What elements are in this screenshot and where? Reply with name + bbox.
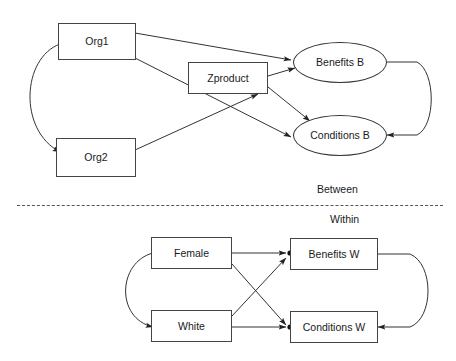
edge-org1-to-benefits-b (135, 33, 291, 60)
node-white-label: White (178, 321, 205, 332)
edge-zproduct-to-conditions-b (268, 87, 310, 121)
edge-benefits-w-conditions-w-covariance (378, 254, 428, 327)
node-org1-label: Org1 (85, 36, 108, 47)
node-benefits-b-label: Benefits B (316, 57, 364, 68)
node-benefits-w-label: Benefits W (309, 249, 360, 260)
edge-org2-to-zproduct (135, 94, 258, 150)
node-conditions-w[interactable]: Conditions W (290, 311, 378, 343)
level-divider (17, 205, 443, 206)
node-white[interactable]: White (151, 310, 232, 342)
node-conditions-b[interactable]: Conditions B (293, 115, 387, 156)
node-conditions-b-label: Conditions B (310, 130, 370, 141)
node-conditions-w-label: Conditions W (303, 322, 365, 333)
edge-female-white-covariance (126, 253, 153, 327)
section-label-within: Within (330, 213, 359, 225)
node-benefits-w[interactable]: Benefits W (290, 238, 378, 270)
node-benefits-b[interactable]: Benefits B (293, 42, 387, 83)
edge-female-to-conditions-w (232, 264, 286, 325)
node-org1[interactable]: Org1 (58, 23, 136, 60)
path-diagram: Org1 Org2 Zproduct Benefits B Conditions… (0, 0, 456, 361)
node-org2[interactable]: Org2 (56, 138, 136, 177)
edge-org1-org2-covariance (30, 44, 60, 152)
section-label-between: Between (317, 183, 358, 195)
node-zproduct[interactable]: Zproduct (188, 62, 268, 94)
edge-benefits-b-conditions-b-covariance (387, 62, 431, 135)
node-org2-label: Org2 (84, 152, 107, 163)
node-zproduct-label: Zproduct (207, 73, 248, 84)
edge-zproduct-to-benefits-b (268, 68, 295, 76)
node-female[interactable]: Female (151, 237, 232, 269)
node-female-label: Female (174, 248, 209, 259)
edge-white-to-benefits-w (232, 258, 286, 316)
